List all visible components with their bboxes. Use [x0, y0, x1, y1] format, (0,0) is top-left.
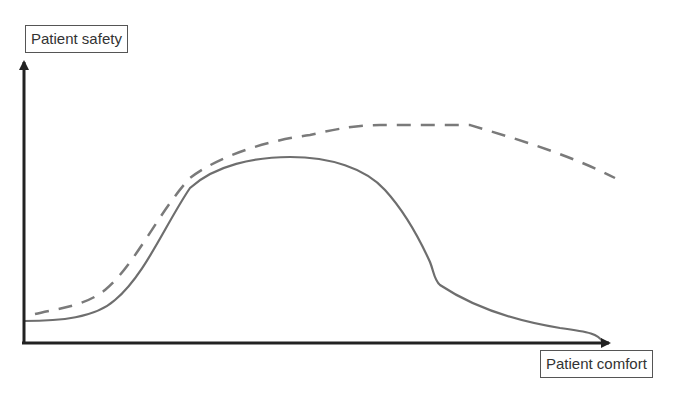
solid-curve [24, 157, 603, 342]
x-axis-label: Patient comfort [540, 350, 653, 378]
diagram-canvas [0, 0, 697, 400]
y-axis-label: Patient safety [25, 25, 128, 53]
dashed-curve [35, 125, 615, 314]
